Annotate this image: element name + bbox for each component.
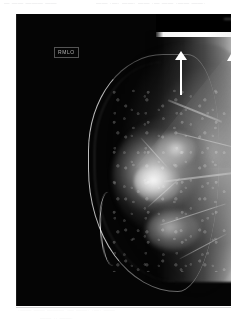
scan-artifact-bottom: ·—— —— ——— ·— ——· ·—· —— —— ·· ——· (0, 306, 249, 324)
scan-artifact-bottom-line-2: —— ·· ——· (40, 315, 73, 321)
compression-paddle-band (156, 32, 231, 37)
unexposed-corner (156, 14, 231, 32)
scan-artifact-top: — —— ——— —— —— ·—· ——· —— ·— —— ·—— ——· (0, 0, 249, 13)
view-marker-label: RMLO (54, 47, 79, 58)
mammogram-film: RMLO (16, 14, 231, 306)
arrow-marker-2 (225, 54, 231, 98)
scan-artifact-top-right: —— ·—· ——· —— ·— —— ·—— ——· (96, 0, 206, 10)
scan-artifact-bottom-line-1: ·—— —— ——— ·— ——· ·—· —— (18, 307, 115, 313)
film-edge (16, 14, 17, 306)
exposure-fleck (224, 18, 231, 20)
scan-artifact-top-left: — —— ——— —— (4, 0, 57, 10)
arrow-marker-1 (174, 51, 188, 95)
arrow-shaft (180, 58, 183, 95)
